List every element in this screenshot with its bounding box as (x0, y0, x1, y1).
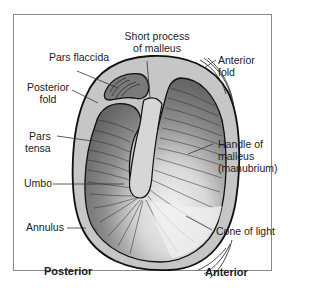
label-posterior-fold: Posterior fold (22, 81, 74, 105)
label-cone-of-light: Cone of light (216, 225, 275, 237)
orientation-posterior: Posterior (44, 265, 92, 277)
label-line: of malleus (112, 42, 202, 54)
label-handle-of-malleus: Handle of malleus (manubrium) (218, 138, 278, 174)
label-line: Handle of (218, 138, 278, 150)
orientation-anterior: Anterior (205, 266, 248, 278)
label-annulus: Annulus (26, 221, 64, 233)
label-line: tensa (25, 142, 51, 154)
label-line: malleus (218, 150, 278, 162)
label-umbo: Umbo (24, 177, 52, 189)
label-pars-flaccida: Pars flaccida (49, 51, 109, 63)
label-line: Pars (25, 130, 51, 142)
label-line: Anterior (218, 54, 255, 66)
label-line: Posterior (22, 81, 74, 93)
label-line: Short process (112, 30, 202, 42)
label-line: fold (218, 66, 255, 78)
label-line: fold (22, 93, 74, 105)
label-pars-tensa: Pars tensa (25, 130, 51, 154)
label-short-process-of-malleus: Short process of malleus (112, 30, 202, 54)
label-line: (manubrium) (218, 162, 278, 174)
label-anterior-fold: Anterior fold (218, 54, 255, 78)
